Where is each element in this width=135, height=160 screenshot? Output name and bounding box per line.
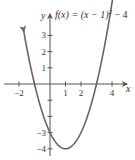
y-tick-label: −4 [36, 144, 46, 154]
x-tick-label: 1 [63, 88, 68, 98]
x-tick-label: −2 [14, 88, 24, 98]
title-rest: − 4 [112, 9, 128, 20]
y-tick-label: 3 [42, 30, 47, 40]
function-graph: −2124 321−3−4 x y f(x) = (x − 1)2 − 4 [0, 0, 135, 160]
title-main: f(x) = (x − 1) [55, 9, 109, 21]
x-axis-label: x [125, 83, 131, 94]
y-axis-label: y [40, 10, 46, 21]
y-tick-label: 1 [42, 63, 47, 73]
x-tick-label: 2 [79, 88, 84, 98]
x-tick-label: 4 [110, 88, 115, 98]
y-tick-label: −3 [36, 128, 46, 138]
x-tick-labels: −2124 [14, 88, 115, 98]
parabola-curve [24, 0, 123, 149]
y-tick-label: 2 [42, 47, 47, 57]
chart-title: f(x) = (x − 1)2 − 4 [55, 8, 128, 21]
y-tick-labels: 321−3−4 [36, 30, 46, 153]
